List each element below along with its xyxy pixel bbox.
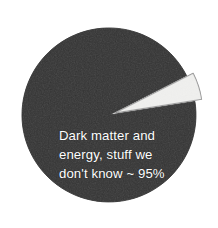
pie-chart-svg <box>0 0 218 228</box>
pie-slice-dark-matter <box>22 28 196 202</box>
pie-chart-figure: Dark matter and energy, stuff we don't k… <box>0 0 218 228</box>
pie-slice-dark-matter-texture <box>22 28 196 202</box>
